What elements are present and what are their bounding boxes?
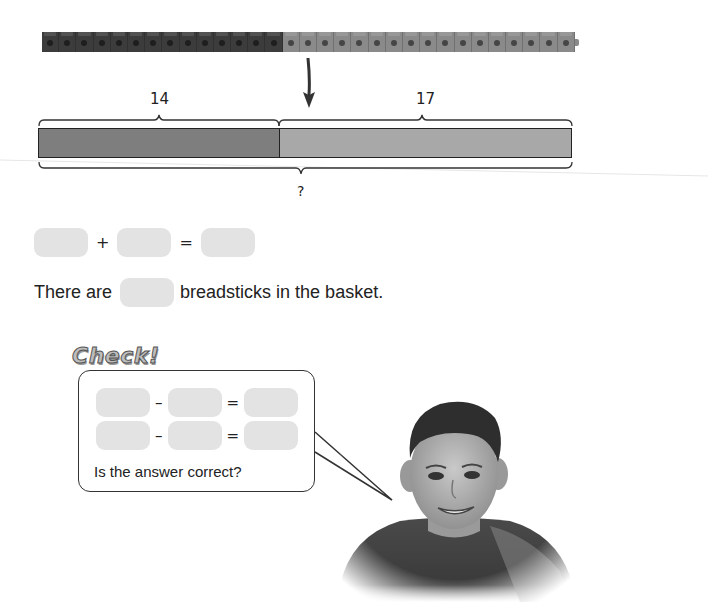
equals-sign: = — [179, 233, 192, 252]
check-equation-2: – = — [96, 421, 298, 450]
light-cube — [351, 32, 368, 52]
dark-cube — [214, 32, 231, 52]
whole-unknown-label: ? — [297, 183, 304, 199]
dark-cube — [59, 32, 76, 52]
check-question-text: Is the answer correct? — [94, 463, 242, 480]
light-cube — [334, 32, 351, 52]
light-cube — [369, 32, 386, 52]
check2-subtrahend-blank[interactable] — [168, 421, 222, 450]
part1-label: 14 — [150, 90, 169, 108]
dark-cube — [128, 32, 145, 52]
equals-sign: = — [227, 394, 240, 412]
part2-label: 17 — [416, 90, 435, 108]
minus-sign: – — [155, 394, 163, 412]
light-cube — [455, 32, 472, 52]
dark-cube — [162, 32, 179, 52]
dark-cube — [76, 32, 93, 52]
light-cube — [300, 32, 317, 52]
dark-cube — [180, 32, 197, 52]
light-cube — [506, 32, 523, 52]
bar-part-14 — [39, 129, 280, 157]
light-cube — [403, 32, 420, 52]
bar-model — [38, 128, 572, 158]
bottom-brace — [38, 160, 574, 178]
check1-difference-blank[interactable] — [244, 388, 298, 417]
light-cube — [420, 32, 437, 52]
check1-minuend-blank[interactable] — [96, 388, 150, 417]
addend-2-blank[interactable] — [117, 228, 171, 257]
equals-sign: = — [227, 427, 240, 445]
cube-connector-nub — [575, 39, 579, 46]
plus-sign: + — [96, 233, 109, 252]
dark-cube — [42, 32, 59, 52]
sum-blank[interactable] — [201, 228, 255, 257]
dark-cube — [231, 32, 248, 52]
check2-minuend-blank[interactable] — [96, 421, 150, 450]
light-cube — [283, 32, 300, 52]
dark-cube — [265, 32, 282, 52]
light-cube — [437, 32, 454, 52]
light-cube — [489, 32, 506, 52]
dark-cube — [94, 32, 111, 52]
answer-blank[interactable] — [120, 278, 174, 307]
dark-cube — [197, 32, 214, 52]
linking-cube-train — [42, 32, 579, 52]
check1-subtrahend-blank[interactable] — [168, 388, 222, 417]
answer-sentence: There are breadsticks in the basket. — [34, 278, 383, 307]
down-arrow-icon — [300, 58, 318, 110]
light-cube — [386, 32, 403, 52]
addition-equation: + = — [34, 228, 255, 257]
check2-difference-blank[interactable] — [244, 421, 298, 450]
sentence-before: There are — [34, 282, 112, 303]
light-cube — [558, 32, 575, 52]
light-cube — [472, 32, 489, 52]
check-heading: Check! — [72, 343, 159, 368]
light-cube — [540, 32, 557, 52]
light-cube — [523, 32, 540, 52]
top-brace-left — [38, 112, 574, 128]
dark-cube — [248, 32, 265, 52]
light-cube — [317, 32, 334, 52]
addend-1-blank[interactable] — [34, 228, 88, 257]
check-equation-1: – = — [96, 388, 298, 417]
check-speech-bubble: – = – = Is the answer correct? — [78, 370, 315, 492]
dark-cube — [111, 32, 128, 52]
dark-cube — [145, 32, 162, 52]
bar-part-17 — [280, 129, 571, 157]
sentence-after: breadsticks in the basket. — [180, 282, 383, 303]
minus-sign: – — [155, 427, 163, 445]
boy-photo — [340, 396, 570, 602]
